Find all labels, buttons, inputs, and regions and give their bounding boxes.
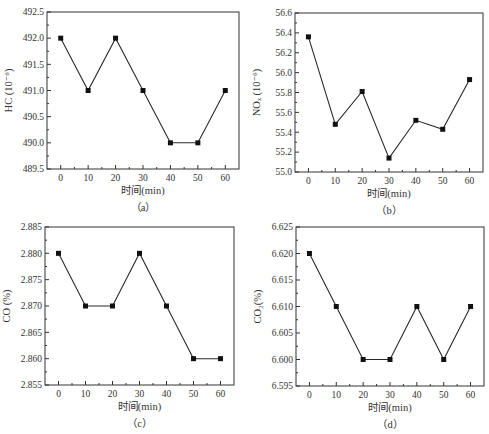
- y-tick-label: 2.865: [21, 328, 43, 338]
- x-tick-label: 40: [162, 389, 172, 399]
- x-tick-label: 40: [166, 173, 176, 183]
- data-point-square-icon: [468, 304, 473, 309]
- x-tick-label: 50: [438, 176, 448, 186]
- y-tick-label: 6.625: [272, 222, 294, 232]
- y-tick-label: 55.8: [275, 88, 292, 98]
- subplot-label: （d）: [377, 419, 402, 430]
- x-tick-label: 0: [58, 173, 63, 183]
- data-point-square-icon: [388, 357, 393, 362]
- data-point-square-icon: [86, 88, 91, 93]
- y-tick-label: 55.2: [275, 147, 292, 157]
- y-tick-label: 56.6: [275, 8, 292, 18]
- x-tick-label: 60: [221, 173, 231, 183]
- data-point-square-icon: [164, 304, 169, 309]
- data-point-square-icon: [414, 304, 419, 309]
- data-point-square-icon: [441, 357, 446, 362]
- data-point-square-icon: [333, 122, 338, 127]
- data-point-square-icon: [467, 77, 472, 82]
- y-axis-label: NOₓ (10⁻⁶): [251, 68, 263, 116]
- data-point-square-icon: [191, 356, 196, 361]
- series-line-nox: [308, 37, 469, 158]
- y-tick-label: 56.4: [275, 28, 292, 38]
- x-tick-label: 20: [357, 176, 367, 186]
- y-tick-label: 2.870: [21, 301, 43, 311]
- chart-panel-d: 6.5956.6006.6056.6106.6156.6206.62501020…: [252, 222, 484, 430]
- figure-grid: 489.5490.0490.5491.0491.5492.0492.501020…: [0, 0, 489, 434]
- data-point-square-icon: [360, 89, 365, 94]
- x-tick-label: 30: [384, 176, 394, 186]
- y-tick-label: 2.880: [21, 249, 43, 259]
- y-tick-label: 2.885: [21, 222, 43, 232]
- x-tick-label: 50: [439, 390, 449, 400]
- x-tick-label: 60: [465, 176, 475, 186]
- y-axis-label: HC (10⁻⁶): [3, 68, 15, 112]
- data-point-square-icon: [223, 88, 228, 93]
- data-point-square-icon: [110, 304, 115, 309]
- chart-panel-b: 55.055.255.455.655.856.056.256.456.60102…: [251, 8, 483, 216]
- y-tick-label: 56.2: [275, 48, 292, 58]
- figure-svg: 489.5490.0490.5491.0491.5492.0492.501020…: [0, 0, 489, 434]
- y-tick-label: 55.4: [275, 128, 292, 138]
- y-tick-label: 6.600: [272, 355, 294, 365]
- y-tick-label: 2.860: [21, 354, 43, 364]
- x-tick-label: 20: [108, 389, 118, 399]
- y-tick-label: 6.595: [272, 381, 294, 391]
- y-tick-label: 490.0: [23, 138, 45, 148]
- y-tick-label: 492.5: [23, 7, 45, 17]
- y-tick-label: 489.5: [23, 164, 45, 174]
- y-tick-label: 6.605: [272, 328, 294, 338]
- x-tick-label: 30: [385, 390, 395, 400]
- plot-frame: [296, 227, 484, 386]
- data-point-square-icon: [58, 36, 63, 41]
- x-axis-label: 时间(min): [367, 187, 411, 200]
- y-tick-label: 490.5: [23, 112, 45, 122]
- y-axis-label: CO₂(%): [252, 289, 264, 323]
- x-tick-label: 0: [56, 389, 61, 399]
- series-line-co2: [309, 254, 470, 360]
- x-tick-label: 10: [332, 390, 342, 400]
- subplot-label: （b）: [376, 205, 401, 216]
- y-tick-label: 56.0: [275, 68, 292, 78]
- x-axis-label: 时间(min): [118, 400, 162, 413]
- y-tick-label: 6.610: [272, 302, 294, 312]
- subplot-label: （a）: [131, 202, 156, 213]
- y-tick-label: 6.615: [272, 275, 294, 285]
- x-tick-label: 60: [466, 390, 476, 400]
- plot-frame: [45, 227, 234, 385]
- y-tick-label: 2.855: [21, 380, 43, 390]
- x-tick-label: 60: [216, 389, 226, 399]
- data-point-square-icon: [56, 251, 61, 256]
- x-tick-label: 50: [193, 173, 203, 183]
- data-point-square-icon: [334, 304, 339, 309]
- data-point-square-icon: [141, 88, 146, 93]
- data-point-square-icon: [195, 140, 200, 145]
- x-tick-label: 20: [358, 390, 368, 400]
- x-tick-label: 30: [138, 173, 148, 183]
- x-tick-label: 10: [81, 389, 91, 399]
- data-point-square-icon: [137, 251, 142, 256]
- data-point-square-icon: [306, 34, 311, 39]
- x-tick-label: 30: [135, 389, 145, 399]
- x-tick-label: 40: [411, 176, 421, 186]
- y-tick-label: 491.0: [23, 86, 45, 96]
- x-tick-label: 20: [111, 173, 121, 183]
- y-tick-label: 55.6: [275, 108, 292, 118]
- y-tick-label: 492.0: [23, 33, 45, 43]
- chart-panel-c: 2.8552.8602.8652.8702.8752.8802.88501020…: [1, 222, 234, 429]
- data-point-square-icon: [113, 36, 118, 41]
- data-point-square-icon: [440, 127, 445, 132]
- x-tick-label: 10: [83, 173, 93, 183]
- x-tick-label: 50: [189, 389, 199, 399]
- x-tick-label: 0: [306, 176, 311, 186]
- data-point-square-icon: [83, 304, 88, 309]
- chart-panel-a: 489.5490.0490.5491.0491.5492.0492.501020…: [3, 7, 239, 213]
- x-axis-label: 时间(min): [368, 401, 412, 414]
- x-tick-label: 10: [331, 176, 341, 186]
- y-axis-label: CO (%): [1, 289, 13, 322]
- x-tick-label: 40: [412, 390, 422, 400]
- x-axis-label: 时间(min): [121, 184, 165, 197]
- plot-frame: [295, 13, 483, 172]
- data-point-square-icon: [387, 156, 392, 161]
- y-tick-label: 2.875: [21, 275, 43, 285]
- data-point-square-icon: [168, 140, 173, 145]
